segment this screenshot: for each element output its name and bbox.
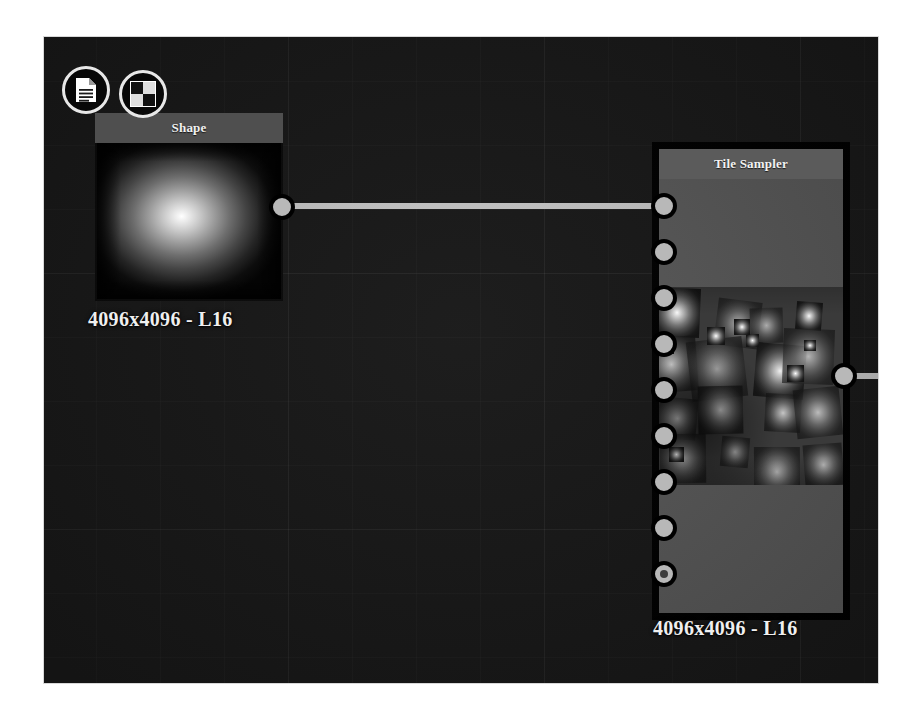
tile-preview-spark [707, 327, 725, 345]
node-graph-canvas[interactable]: Shape 4096x4096 - L16 Tile Sampler [44, 37, 878, 683]
tile-preview-spark [804, 340, 816, 352]
node-shape-preview-thumbnail[interactable] [97, 143, 281, 299]
node-tile-sampler-input-pin-background[interactable] [651, 239, 677, 265]
tile-preview-cell [753, 342, 807, 400]
node-tile-sampler-input-pin-vector-map[interactable] [651, 423, 677, 449]
node-shape-title: Shape [95, 113, 283, 143]
tile-preview-cell [802, 443, 843, 485]
node-tile-sampler-input-pin-scale-map[interactable] [651, 285, 677, 311]
tile-preview-cell [782, 329, 835, 386]
node-tile-sampler-input-pin-mask-map[interactable] [651, 515, 677, 541]
node-tile-sampler-preview-thumbnail[interactable] [659, 287, 843, 485]
node-tile-sampler-input-pin-displacement-map[interactable] [651, 331, 677, 357]
node-tile-sampler-resolution-caption: 4096x4096 - L16 [653, 617, 798, 640]
tile-preview-cell [795, 301, 823, 331]
node-shape[interactable]: Shape [95, 113, 283, 301]
tile-preview-spark [746, 334, 758, 346]
tile-preview-cell [686, 336, 749, 402]
tile-preview-cell [713, 297, 762, 349]
node-tile-sampler-input-pin-pattern[interactable] [651, 193, 677, 219]
node-shape-resolution-caption: 4096x4096 - L16 [88, 308, 233, 331]
tile-preview-spark [787, 365, 804, 382]
screenshot-root: Shape 4096x4096 - L16 Tile Sampler [0, 0, 921, 719]
tile-preview-cell [792, 386, 842, 439]
node-tile-sampler-input-pin-pattern-distribution[interactable] [651, 561, 677, 587]
node-tile-sampler-input-pin-color-map[interactable] [651, 469, 677, 495]
checker-thumbnail-badge[interactable] [119, 70, 167, 118]
node-tile-sampler-output-pin[interactable] [831, 363, 857, 389]
checkerboard-icon [130, 81, 156, 107]
node-tile-sampler-title: Tile Sampler [659, 149, 843, 179]
node-tile-sampler-input-pin-rotation-map[interactable] [651, 377, 677, 403]
document-icon [74, 77, 98, 103]
tile-preview-cell [749, 307, 782, 343]
tile-preview-cell [720, 436, 751, 468]
node-tile-sampler[interactable]: Tile Sampler [652, 142, 850, 620]
tile-preview-cell [698, 385, 744, 434]
tile-preview-spark [734, 319, 750, 335]
node-shape-output-pin[interactable] [269, 194, 295, 220]
tile-preview-cell [754, 447, 800, 485]
graph-document-badge[interactable] [62, 66, 110, 114]
tile-preview-spark [669, 447, 684, 462]
tile-preview-cell [764, 393, 802, 433]
